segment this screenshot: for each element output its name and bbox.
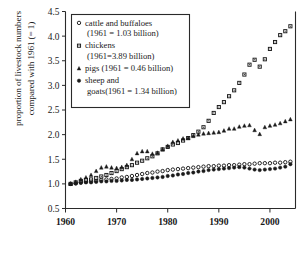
data-point-core	[249, 64, 250, 65]
data-point	[243, 124, 247, 128]
data-point	[273, 123, 277, 127]
data-point	[284, 161, 287, 164]
data-point	[84, 181, 87, 184]
y-tick-label: 1.0	[48, 179, 60, 189]
data-point	[89, 173, 93, 177]
x-tick-label: 1970	[107, 216, 126, 227]
data-point	[268, 167, 271, 170]
data-point-core	[244, 74, 245, 75]
x-tick-label: 2000	[260, 216, 279, 227]
chart-legend: cattle and buffaloes(1961 = 1.03 billion…	[72, 15, 190, 108]
data-point	[94, 180, 97, 183]
data-point	[192, 171, 195, 174]
data-point-core	[96, 177, 97, 178]
y-axis-ticks: 0.51.01.52.02.53.03.54.04.5	[48, 7, 66, 214]
data-point	[217, 130, 221, 134]
data-point	[243, 166, 246, 169]
data-point	[135, 173, 138, 176]
data-point	[100, 180, 103, 183]
data-point-core	[218, 107, 219, 108]
data-point	[273, 161, 276, 164]
y-tick-label: 4.0	[48, 32, 60, 42]
data-point	[130, 157, 134, 161]
data-point-core	[208, 120, 209, 121]
data-point	[99, 166, 103, 170]
data-point	[289, 162, 292, 165]
data-point-core	[101, 176, 102, 177]
data-point	[186, 171, 189, 174]
data-point	[145, 149, 149, 153]
legend-marker-0	[77, 21, 80, 24]
data-point	[238, 165, 241, 168]
data-point	[278, 121, 282, 125]
livestock-proportion-chart: proportion of livestock numbers compared…	[0, 0, 301, 260]
data-point	[89, 181, 92, 184]
data-point	[166, 168, 169, 171]
legend-sublabel-0: (1961 = 1.03 billion)	[87, 28, 159, 38]
plot-area: 0.51.01.52.02.53.03.54.04.5 196019701980…	[0, 0, 301, 260]
data-point-core	[91, 179, 92, 180]
data-point	[212, 164, 215, 167]
data-point	[248, 123, 252, 127]
data-point	[151, 176, 154, 179]
data-point	[273, 167, 276, 170]
legend-marker-1-core	[79, 45, 80, 46]
data-point-core	[203, 127, 204, 128]
y-tick-label: 0.5	[48, 204, 60, 214]
legend-label-1: chickens	[85, 40, 116, 50]
data-point	[289, 117, 293, 121]
x-axis-ticks: 19601970198019902000	[56, 209, 280, 227]
data-point	[151, 152, 155, 156]
data-point	[207, 168, 210, 171]
data-point-core	[111, 173, 112, 174]
data-point-core	[290, 26, 291, 27]
data-point	[176, 138, 180, 142]
data-point	[192, 166, 195, 169]
data-point	[248, 162, 251, 165]
data-point	[171, 140, 175, 144]
y-tick-label: 2.0	[48, 130, 60, 140]
legend-label-0: cattle and buffaloes	[85, 18, 153, 28]
legend-label-3: sheep and	[85, 75, 120, 85]
data-point	[105, 165, 109, 169]
data-point	[94, 169, 98, 173]
data-point	[222, 129, 226, 133]
data-point-core	[152, 156, 153, 157]
data-point	[237, 125, 241, 129]
data-point	[146, 171, 149, 174]
data-point	[222, 167, 225, 170]
data-point-core	[280, 35, 281, 36]
data-point	[248, 167, 251, 170]
data-point	[176, 173, 179, 176]
data-point	[74, 182, 77, 185]
data-point	[278, 161, 281, 164]
data-point	[253, 168, 256, 171]
data-point	[171, 174, 174, 177]
data-point-core	[239, 82, 240, 83]
data-point	[130, 174, 133, 177]
data-point	[130, 178, 133, 181]
data-point-core	[85, 179, 86, 180]
data-point	[268, 124, 272, 128]
data-point	[263, 125, 267, 129]
data-point-core	[275, 42, 276, 43]
data-point	[176, 167, 179, 170]
data-point	[120, 179, 123, 182]
data-point	[110, 166, 114, 170]
data-point	[263, 161, 266, 164]
legend-sublabel-3: goats(1961 = 1.34 billion)	[87, 86, 177, 96]
data-point	[146, 177, 149, 180]
data-point	[161, 175, 164, 178]
data-point	[135, 178, 138, 181]
data-point	[207, 164, 210, 167]
data-point	[79, 181, 82, 184]
data-point	[227, 166, 230, 169]
data-point-core	[147, 158, 148, 159]
data-point-core	[177, 143, 178, 144]
data-point	[217, 164, 220, 167]
data-point	[166, 174, 169, 177]
data-point	[283, 119, 287, 123]
data-point-core	[116, 171, 117, 172]
data-point	[232, 127, 236, 131]
data-point-core	[229, 96, 230, 97]
